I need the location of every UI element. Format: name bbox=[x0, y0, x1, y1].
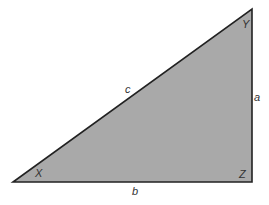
vertex-label-x: X bbox=[34, 167, 43, 179]
right-triangle-shape bbox=[13, 9, 252, 182]
side-label-c: c bbox=[125, 83, 131, 95]
triangle-diagram: Y X Z c a b bbox=[0, 0, 269, 205]
side-label-a: a bbox=[254, 91, 260, 103]
side-label-b: b bbox=[132, 185, 138, 197]
vertex-label-y: Y bbox=[242, 18, 250, 30]
vertex-label-z: Z bbox=[238, 168, 247, 180]
